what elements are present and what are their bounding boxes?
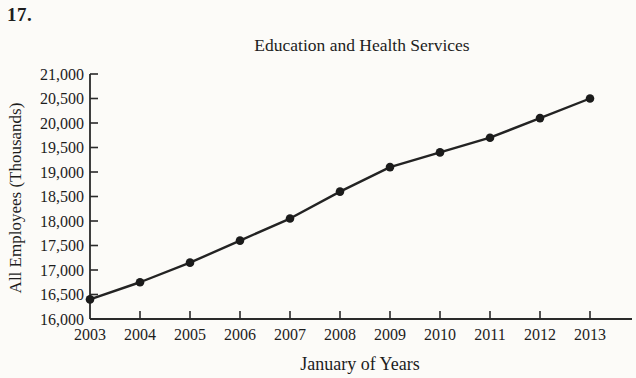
x-tick-label: 2006: [224, 326, 256, 343]
x-tick-label: 2013: [574, 326, 606, 343]
y-tick-label: 16,000: [40, 311, 84, 328]
data-point: [136, 278, 145, 287]
x-tick-label: 2012: [524, 326, 556, 343]
x-tick-label: 2010: [424, 326, 456, 343]
x-tick-label: 2011: [474, 326, 505, 343]
y-tick-label: 17,500: [40, 237, 84, 254]
y-tick-label: 19,000: [40, 164, 84, 181]
data-point: [186, 258, 195, 267]
x-tick-label: 2003: [74, 326, 106, 343]
data-point: [86, 295, 95, 304]
x-tick-label: 2008: [324, 326, 356, 343]
y-tick-label: 20,000: [40, 115, 84, 132]
y-tick-label: 19,500: [40, 139, 84, 156]
chart-svg: 16,00016,50017,00017,50018,00018,50019,0…: [0, 0, 636, 378]
x-tick-label: 2007: [274, 326, 306, 343]
y-tick-label: 16,500: [40, 286, 84, 303]
data-point: [436, 148, 445, 157]
x-tick-label: 2005: [174, 326, 206, 343]
y-tick-label: 18,500: [40, 188, 84, 205]
data-point: [586, 94, 595, 103]
y-tick-label: 20,500: [40, 90, 84, 107]
y-tick-label: 18,000: [40, 213, 84, 230]
x-tick-label: 2009: [374, 326, 406, 343]
x-tick-label: 2004: [124, 326, 156, 343]
data-line: [90, 99, 590, 300]
data-point: [386, 163, 395, 172]
data-point: [336, 187, 345, 196]
y-tick-label: 17,000: [40, 262, 84, 279]
data-point: [286, 214, 295, 223]
data-point: [236, 236, 245, 245]
y-tick-label: 21,000: [40, 66, 84, 83]
data-point: [536, 114, 545, 123]
data-point: [486, 133, 495, 142]
page: 17. Education and Health Services All Em…: [0, 0, 636, 378]
